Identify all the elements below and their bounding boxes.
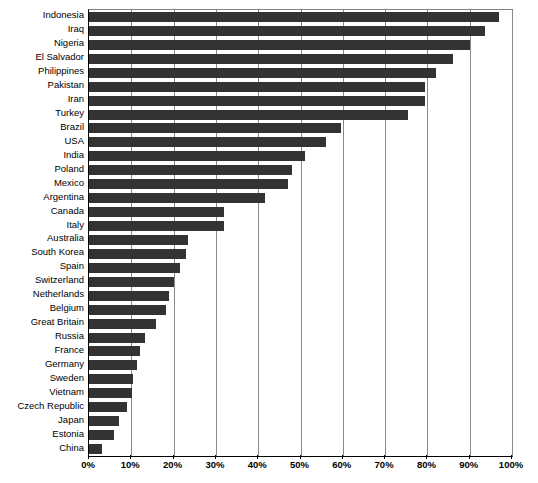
- bar-poland: [89, 165, 292, 175]
- bar-el-salvador: [89, 54, 453, 64]
- bar-estonia: [89, 430, 114, 440]
- bar-row: [89, 137, 512, 147]
- y-label-nigeria: Nigeria: [0, 38, 84, 48]
- bar-argentina: [89, 193, 265, 203]
- bar-row: [89, 291, 512, 301]
- y-label-france: France: [0, 345, 84, 355]
- bar-chart: IndonesiaIraqNigeriaEl SalvadorPhilippin…: [0, 0, 538, 483]
- bar-row: [89, 96, 512, 106]
- bar-india: [89, 151, 305, 161]
- bar-row: [89, 221, 512, 231]
- bar-row: [89, 319, 512, 329]
- bar-row: [89, 305, 512, 315]
- x-label-10pct: 10%: [121, 459, 140, 471]
- bar-row: [89, 360, 512, 370]
- y-label-indonesia: Indonesia: [0, 10, 84, 20]
- bar-row: [89, 249, 512, 259]
- bar-nigeria: [89, 40, 470, 50]
- bar-iraq: [89, 26, 485, 36]
- x-label-70pct: 70%: [375, 459, 394, 471]
- bar-row: [89, 430, 512, 440]
- bar-vietnam: [89, 388, 132, 398]
- y-label-czech-republic: Czech Republic: [0, 401, 84, 411]
- bar-pakistan: [89, 82, 425, 92]
- bar-turkey: [89, 110, 408, 120]
- y-axis-category-labels: IndonesiaIraqNigeriaEl SalvadorPhilippin…: [0, 9, 84, 455]
- y-label-spain: Spain: [0, 261, 84, 271]
- bar-indonesia: [89, 12, 499, 22]
- bar-series: [89, 10, 512, 456]
- bar-row: [89, 277, 512, 287]
- y-label-brazil: Brazil: [0, 122, 84, 132]
- y-label-italy: Italy: [0, 220, 84, 230]
- bar-great-britain: [89, 319, 156, 329]
- y-label-india: India: [0, 150, 84, 160]
- bar-row: [89, 40, 512, 50]
- bar-czech-republic: [89, 402, 127, 412]
- bar-row: [89, 12, 512, 22]
- bar-row: [89, 416, 512, 426]
- bar-south-korea: [89, 249, 186, 259]
- bar-row: [89, 444, 512, 454]
- bar-belgium: [89, 305, 166, 315]
- plot-area: [88, 9, 513, 457]
- bar-france: [89, 346, 140, 356]
- y-label-australia: Australia: [0, 233, 84, 243]
- y-label-poland: Poland: [0, 164, 84, 174]
- x-label-50pct: 50%: [290, 459, 309, 471]
- bar-china: [89, 444, 102, 454]
- bar-russia: [89, 333, 145, 343]
- bar-row: [89, 235, 512, 245]
- bar-canada: [89, 207, 224, 217]
- bar-row: [89, 374, 512, 384]
- y-label-vietnam: Vietnam: [0, 387, 84, 397]
- x-label-0pct: 0%: [81, 459, 95, 471]
- y-label-iran: Iran: [0, 94, 84, 104]
- bar-row: [89, 54, 512, 64]
- bar-row: [89, 68, 512, 78]
- bar-row: [89, 165, 512, 175]
- y-label-netherlands: Netherlands: [0, 289, 84, 299]
- x-axis-tick-labels: 0%10%20%30%40%50%60%70%80%90%100%: [0, 459, 538, 475]
- y-label-japan: Japan: [0, 415, 84, 425]
- y-label-russia: Russia: [0, 331, 84, 341]
- bar-row: [89, 110, 512, 120]
- x-label-90pct: 90%: [459, 459, 478, 471]
- bar-japan: [89, 416, 119, 426]
- y-label-el-salvador: El Salvador: [0, 52, 84, 62]
- y-label-philippines: Philippines: [0, 66, 84, 76]
- y-label-germany: Germany: [0, 359, 84, 369]
- y-label-iraq: Iraq: [0, 24, 84, 34]
- y-label-argentina: Argentina: [0, 192, 84, 202]
- bar-switzerland: [89, 277, 174, 287]
- y-label-turkey: Turkey: [0, 108, 84, 118]
- y-label-sweden: Sweden: [0, 373, 84, 383]
- x-label-40pct: 40%: [248, 459, 267, 471]
- bar-row: [89, 207, 512, 217]
- y-label-great-britain: Great Britain: [0, 317, 84, 327]
- bar-italy: [89, 221, 224, 231]
- y-label-mexico: Mexico: [0, 178, 84, 188]
- bar-brazil: [89, 123, 341, 133]
- bar-sweden: [89, 374, 133, 384]
- bar-row: [89, 179, 512, 189]
- bar-iran: [89, 96, 425, 106]
- y-label-china: China: [0, 443, 84, 453]
- bar-row: [89, 346, 512, 356]
- y-label-estonia: Estonia: [0, 429, 84, 439]
- bar-row: [89, 333, 512, 343]
- x-label-20pct: 20%: [163, 459, 182, 471]
- bar-australia: [89, 235, 188, 245]
- y-label-pakistan: Pakistan: [0, 80, 84, 90]
- bar-row: [89, 123, 512, 133]
- y-label-canada: Canada: [0, 206, 84, 216]
- bar-row: [89, 26, 512, 36]
- bar-row: [89, 263, 512, 273]
- bar-spain: [89, 263, 180, 273]
- bar-row: [89, 402, 512, 412]
- x-label-100pct: 100%: [499, 459, 523, 471]
- y-label-south-korea: South Korea: [0, 247, 84, 257]
- bar-row: [89, 82, 512, 92]
- x-label-60pct: 60%: [332, 459, 351, 471]
- y-label-belgium: Belgium: [0, 303, 84, 313]
